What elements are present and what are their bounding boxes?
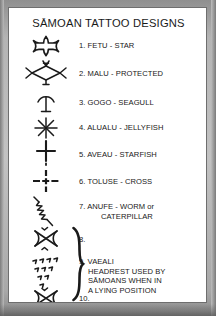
list-item: 2. MALU - PROTECTED: [9, 59, 207, 87]
list-item: 3. GOGO - SEAGULL: [9, 91, 207, 115]
list-item-label: 7. ANUFE - WORM or CATERPILLAR: [79, 202, 206, 221]
designs-panel: SĀMOAN TATTOO DESIGNS 1. FETU - STAR: [8, 7, 207, 303]
toluse-cross-symbol: [13, 166, 79, 196]
frame-edge-right: [211, 0, 216, 316]
aveau-starfish-symbol: [13, 139, 79, 167]
list-item-label: 1. FETU - STAR: [79, 41, 206, 51]
list-item: 10.: [9, 285, 207, 303]
list-item: 4. ALUALU - JELLYFISH: [9, 116, 207, 140]
frame-edge-left: [0, 0, 4, 316]
list-item-label: 2. MALU - PROTECTED: [79, 69, 206, 79]
list-item-label-line: CATERPILLAR: [79, 212, 206, 222]
list-item-label-line: 9. VAEALI: [79, 257, 206, 267]
page-title: SĀMOAN TATTOO DESIGNS: [9, 17, 207, 29]
list-item-label: 4. ALUALU - JELLYFISH: [79, 123, 206, 133]
list-item-label: 3. GOGO - SEAGULL: [79, 98, 206, 108]
list-item: 5. AVEAU - STARFISH: [9, 139, 207, 167]
list-item-label-line: 7. ANUFE - WORM or: [79, 202, 206, 212]
gogo-seagull-symbol: [13, 91, 79, 115]
list-item: 6. TOLUSE - CROSS: [9, 166, 207, 196]
list-item-label: 8.: [79, 235, 206, 245]
fetu-star-symbol: [13, 34, 79, 58]
list-item-label: 10.: [79, 294, 206, 303]
list-item-label: 6. TOLUSE - CROSS: [79, 177, 206, 187]
list-item: 8.: [9, 224, 207, 254]
curly-brace-icon: [69, 226, 85, 302]
screenshot-root: SĀMOAN TATTOO DESIGNS 1. FETU - STAR: [0, 0, 216, 316]
malu-protected-symbol: [13, 59, 79, 87]
list-item-label: 5. AVEAU - STARFISH: [79, 150, 206, 160]
list-item-label-line: HEADREST USED BY: [79, 267, 206, 277]
list-item: 1. FETU - STAR: [9, 34, 207, 58]
alualu-jellyfish-symbol: [13, 116, 79, 140]
